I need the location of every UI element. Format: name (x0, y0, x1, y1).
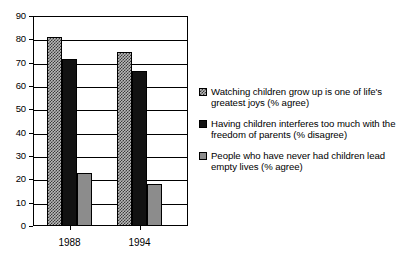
y-tick-label: 10 (0, 198, 26, 207)
legend-item: Having children interferes too much with… (199, 118, 417, 141)
y-tick-label: 30 (0, 151, 26, 160)
x-tick-mark (70, 226, 71, 230)
x-tick-mark (140, 226, 141, 230)
bar (77, 173, 92, 226)
y-tick-mark (29, 226, 33, 227)
legend-swatch-solid-icon (199, 120, 207, 128)
legend-swatch-grey-icon (199, 152, 207, 160)
legend-swatch-hatched-icon (199, 88, 207, 96)
y-tick-label: 50 (0, 104, 26, 113)
y-tick-label: 60 (0, 81, 26, 90)
bar (47, 37, 62, 226)
y-tick-label: 20 (0, 174, 26, 183)
y-tick-label: 90 (0, 11, 26, 20)
legend-item: Watching children grow up is one of life… (199, 86, 417, 109)
x-tick-label: 1988 (45, 237, 95, 248)
bar (62, 59, 77, 226)
bar (147, 184, 162, 226)
bar (132, 71, 147, 226)
legend-label: Watching children grow up is one of life… (211, 86, 411, 109)
y-axis: 0102030405060708090 (0, 0, 33, 280)
y-tick-label: 40 (0, 128, 26, 137)
legend-label: People who have never had children lead … (211, 150, 411, 173)
y-tick-label: 80 (0, 34, 26, 43)
chart-legend: Watching children grow up is one of life… (199, 86, 417, 181)
bar (117, 52, 132, 226)
legend-item: People who have never had children lead … (199, 150, 417, 173)
legend-label: Having children interferes too much with… (211, 118, 411, 141)
x-tick-label: 1994 (115, 237, 165, 248)
y-tick-label: 70 (0, 58, 26, 67)
bar-chart: 0102030405060708090 19881994 (0, 0, 200, 280)
y-tick-label: 0 (0, 221, 26, 230)
